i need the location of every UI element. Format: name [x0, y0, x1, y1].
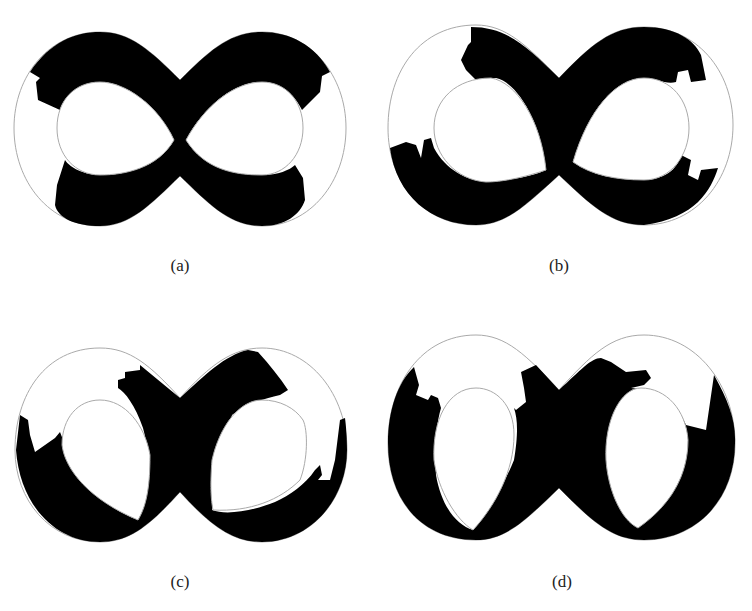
shape-d — [376, 310, 752, 611]
shape-b — [376, 0, 752, 300]
panel-d: (d) — [376, 310, 752, 611]
panel-label-b: (b) — [529, 256, 589, 276]
shape-c — [0, 310, 376, 611]
panel-label-c: (c) — [150, 572, 210, 592]
panel-c: (c) — [0, 310, 376, 611]
panel-label-a: (a) — [150, 256, 210, 276]
shape-a — [0, 0, 376, 300]
panel-label-d: (d) — [532, 572, 592, 592]
panel-b: (b) — [376, 0, 752, 300]
panel-a: (a) — [0, 0, 376, 300]
